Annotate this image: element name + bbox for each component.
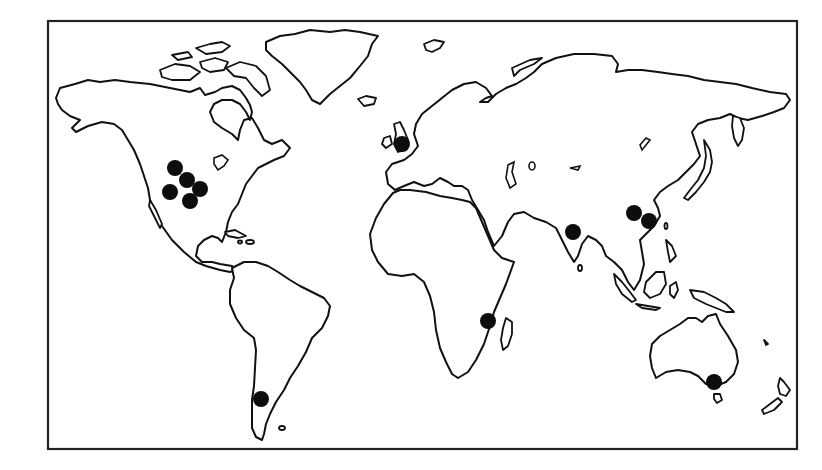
site-marker[interactable] [626, 205, 642, 221]
falkland-islands [279, 426, 285, 430]
continent-south-america [230, 262, 330, 440]
world-map [0, 0, 822, 470]
cuba [225, 230, 246, 238]
caribbean-island [246, 240, 254, 244]
taiwan [665, 223, 668, 229]
site-marker[interactable] [253, 391, 269, 407]
site-marker[interactable] [641, 213, 657, 229]
arctic-island [172, 52, 192, 60]
madagascar [501, 318, 512, 350]
kamchatka [732, 116, 744, 146]
new-zealand-south [762, 398, 782, 414]
continent-north-america [56, 80, 290, 272]
java [636, 304, 660, 310]
ireland [382, 136, 392, 148]
new-caledonia [764, 340, 768, 345]
sulawesi [670, 282, 678, 298]
arctic-island [200, 58, 228, 72]
site-marker[interactable] [162, 184, 178, 200]
greenland [266, 30, 378, 104]
arctic-island [196, 42, 230, 54]
new-guinea [690, 290, 734, 312]
tasmania [714, 394, 722, 403]
iceland [358, 96, 376, 106]
arctic-island [160, 64, 200, 80]
site-marker[interactable] [182, 193, 198, 209]
site-marker[interactable] [179, 172, 195, 188]
aral-sea [529, 162, 535, 170]
borneo [644, 272, 666, 298]
philippines [666, 240, 676, 262]
site-marker[interactable] [706, 374, 722, 390]
sri-lanka [578, 265, 582, 271]
new-zealand-north [778, 378, 790, 396]
caribbean-island [238, 241, 242, 244]
site-marker[interactable] [167, 160, 183, 176]
site-marker[interactable] [480, 313, 496, 329]
site-marker[interactable] [394, 136, 410, 152]
continent-australia [650, 314, 738, 386]
site-marker[interactable] [565, 224, 581, 240]
svalbard [424, 40, 444, 52]
